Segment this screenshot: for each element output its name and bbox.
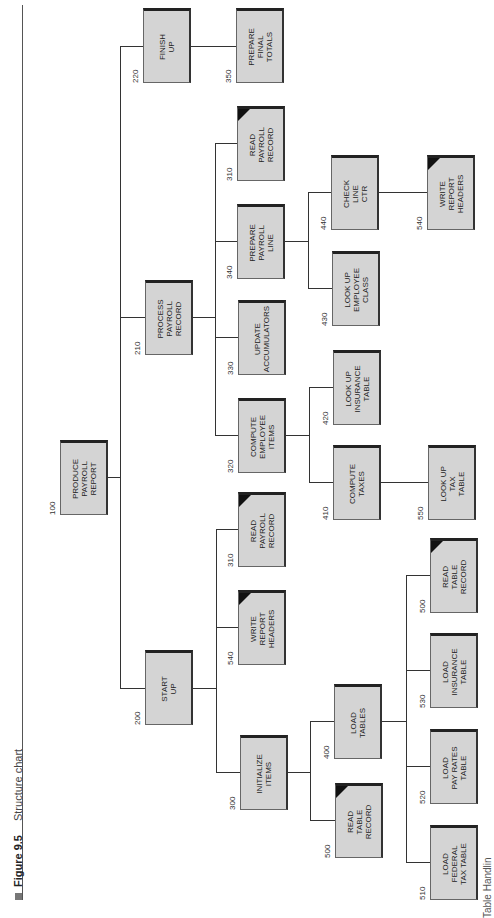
module-number: 340 bbox=[225, 266, 234, 279]
module-label: READ PAYROLL RECORD bbox=[248, 513, 275, 549]
module-label: PROCESS PAYROLL RECORD bbox=[155, 299, 182, 338]
module-box-500: READ TABLE RECORD bbox=[430, 538, 478, 613]
module-label: COMPUTE TAXES bbox=[348, 464, 366, 504]
module-number: 420 bbox=[321, 412, 330, 425]
module-box-530: LOAD INSURANCE TABLE bbox=[430, 633, 478, 708]
module-number: 500 bbox=[323, 845, 332, 858]
module-box-540: WRITE REPORT HEADERS bbox=[238, 590, 286, 665]
module-number: 350 bbox=[224, 70, 233, 83]
module-box-200: START UP bbox=[145, 650, 193, 725]
library-module-corner-icon bbox=[336, 786, 348, 798]
page-footer: Table Handlin bbox=[482, 857, 493, 918]
module-number: 220 bbox=[131, 70, 140, 83]
module-number: 200 bbox=[133, 712, 142, 725]
module-label: COMPUTE EMPLOYEE ITEMS bbox=[248, 414, 275, 458]
module-number: 210 bbox=[133, 342, 142, 355]
library-module-corner-icon bbox=[431, 541, 443, 553]
module-box-410: COMPUTE TAXES bbox=[333, 445, 381, 520]
module-label: LOAD INSURANCE TABLE bbox=[440, 648, 467, 695]
module-number: 310 bbox=[225, 168, 234, 181]
module-label: READ TABLE RECORD bbox=[440, 559, 467, 594]
figure-caption: Figure 9.5 Structure chart bbox=[4, 0, 34, 918]
module-label: LOAD PAY RATES TABLE bbox=[440, 746, 467, 789]
module-number: 440 bbox=[319, 217, 328, 230]
figure-number: Figure 9.5 bbox=[12, 835, 24, 887]
module-label: PRODUCE PAYROLL REPORT bbox=[70, 458, 97, 498]
module-box-550: LOOK UP TAX TABLE bbox=[428, 445, 476, 520]
module-box-540: WRITE REPORT HEADERS bbox=[427, 155, 475, 230]
module-box-310: READ PAYROLL RECORD bbox=[238, 492, 286, 567]
module-label: UPDATE ACCUMULATORS bbox=[253, 305, 271, 371]
module-label: START UP bbox=[160, 676, 178, 701]
module-number: 550 bbox=[416, 507, 425, 520]
module-number: 530 bbox=[418, 695, 427, 708]
module-number: 310 bbox=[226, 554, 235, 567]
module-box-420: LOOK UP INSURANCE TABLE bbox=[333, 350, 381, 425]
module-box-320: COMPUTE EMPLOYEE ITEMS bbox=[238, 398, 286, 473]
module-number: 410 bbox=[321, 507, 330, 520]
module-number: 330 bbox=[226, 362, 235, 375]
module-label: INITIALIZE ITEMS bbox=[255, 754, 273, 794]
module-box-520: LOAD PAY RATES TABLE bbox=[430, 729, 478, 804]
library-module-corner-icon bbox=[239, 495, 251, 507]
module-label: LOOK UP INSURANCE TABLE bbox=[343, 365, 370, 412]
module-number: 540 bbox=[226, 652, 235, 665]
module-box-510: LOAD FEDERAL TAX TABLE bbox=[430, 825, 478, 900]
module-label: LOOK UP EMPLOYEE CLASS bbox=[342, 267, 369, 311]
module-number: 100 bbox=[48, 502, 57, 515]
module-number: 500 bbox=[418, 600, 427, 613]
module-label: LOAD TABLES bbox=[349, 707, 367, 737]
module-number: 430 bbox=[320, 313, 329, 326]
module-label: PREPARE FINAL TOTALS bbox=[246, 28, 273, 66]
module-box-300: INITIALIZE ITEMS bbox=[240, 735, 288, 810]
library-module-corner-icon bbox=[238, 109, 250, 121]
module-number: 400 bbox=[322, 746, 331, 759]
module-box-220: FINISH UP bbox=[143, 8, 191, 83]
module-box-330: UPDATE ACCUMULATORS bbox=[238, 300, 286, 375]
module-number: 300 bbox=[228, 797, 237, 810]
module-label: LOAD FEDERAL TAX TABLE bbox=[440, 843, 467, 885]
module-label: FINISH UP bbox=[158, 33, 176, 59]
module-label: LOOK UP TAX TABLE bbox=[438, 466, 465, 502]
module-label: CHECK LINE CTR bbox=[341, 179, 368, 207]
module-box-440: CHECK LINE CTR bbox=[331, 155, 379, 230]
module-box-430: LOOK UP EMPLOYEE CLASS bbox=[332, 251, 380, 326]
module-number: 320 bbox=[226, 460, 235, 473]
module-label: PREPARE PAYROLL LINE bbox=[247, 224, 274, 262]
module-box-500: READ TABLE RECORD bbox=[335, 783, 383, 858]
library-module-corner-icon bbox=[239, 593, 251, 605]
module-box-350: PREPARE FINAL TOTALS bbox=[236, 8, 284, 83]
module-box-100: PRODUCE PAYROLL REPORT bbox=[60, 440, 108, 515]
module-box-310: READ PAYROLL RECORD bbox=[237, 106, 285, 181]
module-number: 520 bbox=[418, 791, 427, 804]
figure-title: Structure chart bbox=[12, 749, 24, 821]
caption-square-icon bbox=[15, 893, 22, 900]
module-label: READ TABLE RECORD bbox=[345, 804, 372, 839]
module-label: WRITE REPORT HEADERS bbox=[248, 609, 275, 648]
module-box-400: LOAD TABLES bbox=[334, 684, 382, 759]
module-number: 510 bbox=[418, 887, 427, 900]
module-box-210: PROCESS PAYROLL RECORD bbox=[145, 280, 193, 355]
module-label: READ PAYROLL RECORD bbox=[247, 127, 274, 163]
module-label: WRITE REPORT HEADERS bbox=[437, 174, 464, 213]
module-box-340: PREPARE PAYROLL LINE bbox=[237, 204, 285, 279]
module-number: 540 bbox=[415, 217, 424, 230]
library-module-corner-icon bbox=[428, 158, 440, 170]
